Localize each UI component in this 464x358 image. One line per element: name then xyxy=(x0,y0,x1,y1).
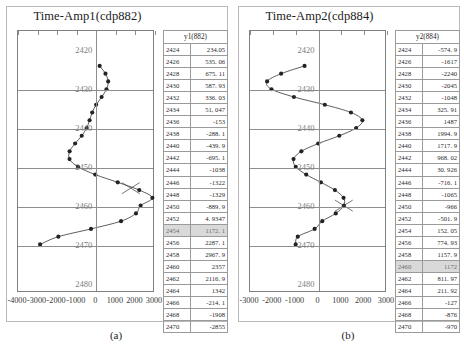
data-point-marker[interactable] xyxy=(119,219,123,223)
table-row[interactable]: 2426-1617 xyxy=(396,56,460,68)
table-cell-amplitude: 1487 xyxy=(423,116,460,128)
data-point-marker[interactable] xyxy=(360,118,364,122)
table-row[interactable]: 2466-214. 1 xyxy=(164,296,228,308)
table-row[interactable]: 2446-1322 xyxy=(164,176,228,188)
table-row[interactable]: 24541172. 1 xyxy=(164,224,228,236)
table-row[interactable]: 2442-695. 1 xyxy=(164,152,228,164)
table-row[interactable]: 24641342 xyxy=(164,284,228,296)
table-cell-amplitude: -1329 xyxy=(191,188,228,200)
data-point-marker[interactable] xyxy=(292,95,296,99)
table-row[interactable]: 243451, 047 xyxy=(164,104,228,116)
data-point-marker[interactable] xyxy=(323,103,327,107)
table-row[interactable]: 24601172 xyxy=(396,260,460,272)
table-header: y1(882) xyxy=(164,31,228,44)
table-row[interactable]: 24602357 xyxy=(164,260,228,272)
table-row[interactable]: 2438-288. 1 xyxy=(164,128,228,140)
table-row[interactable]: 2432336. 03 xyxy=(164,92,228,104)
data-point-marker[interactable] xyxy=(68,149,72,153)
table-row[interactable]: 2466-127 xyxy=(396,296,460,308)
table-row[interactable]: 2456774. 93 xyxy=(396,236,460,248)
data-table-b[interactable]: y2(884)2424-574. 92426-16172428-22402430… xyxy=(395,30,460,333)
table-row[interactable]: 2450-966 xyxy=(396,200,460,212)
table-cell-amplitude: 535. 06 xyxy=(191,56,228,68)
y-axis-tick-label: 2440 xyxy=(298,123,317,133)
data-point-marker[interactable] xyxy=(106,79,110,83)
data-point-marker[interactable] xyxy=(265,79,269,83)
table-row[interactable]: 24582967. 9 xyxy=(164,248,228,260)
table-row[interactable]: 2430587. 93 xyxy=(164,80,228,92)
data-point-marker[interactable] xyxy=(80,134,84,138)
data-point-marker[interactable] xyxy=(103,72,107,76)
table-row[interactable]: 2432-1048 xyxy=(396,92,460,104)
data-point-marker[interactable] xyxy=(56,235,60,239)
data-point-marker[interactable] xyxy=(67,157,71,161)
table-row[interactable]: 24581157. 9 xyxy=(396,248,460,260)
data-point-marker[interactable] xyxy=(320,219,324,223)
data-point-marker[interactable] xyxy=(291,157,295,161)
table-cell-amplitude: 234.05 xyxy=(191,44,228,56)
data-point-marker[interactable] xyxy=(116,180,120,184)
table-row[interactable]: 2448-1329 xyxy=(164,188,228,200)
data-point-marker[interactable] xyxy=(334,211,338,215)
x-axis-tick-label: 3000 xyxy=(378,296,394,305)
data-point-marker[interactable] xyxy=(313,227,317,231)
data-point-marker[interactable] xyxy=(90,110,94,114)
table-cell-time: 2438 xyxy=(396,128,423,140)
table-row[interactable]: 24622116. 9 xyxy=(164,272,228,284)
data-point-marker[interactable] xyxy=(73,141,77,145)
data-point-marker[interactable] xyxy=(88,118,92,122)
x-axis-tick-label: 1000 xyxy=(107,296,123,305)
table-row[interactable]: 2428-2240 xyxy=(396,68,460,80)
data-point-marker[interactable] xyxy=(98,64,102,68)
data-point-marker[interactable] xyxy=(333,188,337,192)
table-cell-time: 2456 xyxy=(164,236,191,248)
data-point-marker[interactable] xyxy=(150,196,154,200)
table-row[interactable]: 24562287. 1 xyxy=(164,236,228,248)
data-point-marker[interactable] xyxy=(279,72,283,76)
table-row[interactable]: 2468-1908 xyxy=(164,309,228,321)
table-row[interactable]: 2428675. 11 xyxy=(164,68,228,80)
table-cell-time: 2452 xyxy=(164,212,191,224)
table-row[interactable]: 2444-1038 xyxy=(164,164,228,176)
zero-axis-line xyxy=(96,31,97,291)
table-row[interactable]: 2448-1065 xyxy=(396,188,460,200)
table-row[interactable]: 2468-876 xyxy=(396,309,460,321)
table-row[interactable]: 2424-574. 9 xyxy=(396,44,460,56)
data-point-marker[interactable] xyxy=(137,188,141,192)
data-point-marker[interactable] xyxy=(296,235,300,239)
data-point-marker[interactable] xyxy=(299,149,303,153)
table-cell-time: 2442 xyxy=(396,152,423,164)
table-row[interactable]: 2462811. 97 xyxy=(396,272,460,284)
table-row[interactable]: 24524. 9347 xyxy=(164,212,228,224)
table-row[interactable]: 244430. 926 xyxy=(396,164,460,176)
crosshair-cursor[interactable] xyxy=(335,200,353,211)
crosshair-cursor[interactable] xyxy=(122,183,140,194)
table-row[interactable]: 2464211. 92 xyxy=(396,284,460,296)
table-row[interactable]: 2446-716. 1 xyxy=(396,176,460,188)
table-row[interactable]: 24401717. 9 xyxy=(396,140,460,152)
table-row[interactable]: 2442968. 02 xyxy=(396,152,460,164)
x-axis-ticks-a: -4000-3000-2000-10000100020003000 xyxy=(17,296,154,310)
table-row[interactable]: 2440-439. 9 xyxy=(164,140,228,152)
data-point-marker[interactable] xyxy=(337,134,341,138)
table-cell-time: 2436 xyxy=(396,116,423,128)
table-row[interactable]: 24361487 xyxy=(396,116,460,128)
table-row[interactable]: 24381994. 9 xyxy=(396,128,460,140)
table-row[interactable]: 2426535. 06 xyxy=(164,56,228,68)
data-table-a[interactable]: y1(882)2424234.052426535. 062428675. 112… xyxy=(163,30,228,333)
data-point-marker[interactable] xyxy=(341,196,345,200)
data-point-marker[interactable] xyxy=(302,64,306,68)
table-row[interactable]: 2450-889. 9 xyxy=(164,200,228,212)
data-point-marker[interactable] xyxy=(349,110,353,114)
table-row[interactable]: 2454152. 05 xyxy=(396,224,460,236)
table-row[interactable]: 2424234.05 xyxy=(164,44,228,56)
data-point-marker[interactable] xyxy=(134,211,138,215)
table-row[interactable]: 2436-153 xyxy=(164,116,228,128)
data-point-marker[interactable] xyxy=(100,95,104,99)
data-point-marker[interactable] xyxy=(304,173,308,177)
table-row[interactable]: 2434325. 91 xyxy=(396,104,460,116)
data-point-marker[interactable] xyxy=(89,227,93,231)
table-row[interactable]: 2452-501. 9 xyxy=(396,212,460,224)
table-row[interactable]: 2430-2045 xyxy=(396,80,460,92)
table-cell-amplitude: -695. 1 xyxy=(191,152,228,164)
